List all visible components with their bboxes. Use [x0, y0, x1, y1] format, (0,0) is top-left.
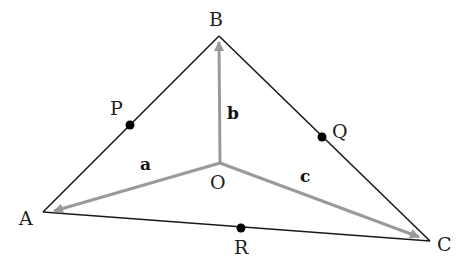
origin-label-O: O: [210, 171, 226, 193]
point-label-Q: Q: [332, 120, 348, 142]
position-vectors: [54, 42, 419, 237]
point-label-R: R: [234, 236, 249, 258]
point-R-dot: [237, 224, 246, 233]
triangle: [43, 36, 430, 241]
vertex-label-A: A: [18, 207, 33, 229]
point-P-dot: [126, 121, 135, 130]
point-Q-dot: [318, 133, 327, 142]
vector-c-arrow: [220, 163, 419, 237]
midpoints: [126, 121, 327, 233]
vector-b-arrow: [219, 42, 220, 163]
vertex-label-B: B: [209, 8, 223, 30]
vector-label-c: c: [300, 166, 310, 186]
point-label-P: P: [110, 97, 123, 119]
vector-label-b: b: [227, 103, 239, 123]
vector-label-a: a: [140, 154, 151, 174]
triangle-vector-diagram: A B C O P Q R a b c: [0, 0, 458, 264]
vertex-label-C: C: [437, 233, 452, 255]
vector-a-arrow: [54, 163, 220, 211]
